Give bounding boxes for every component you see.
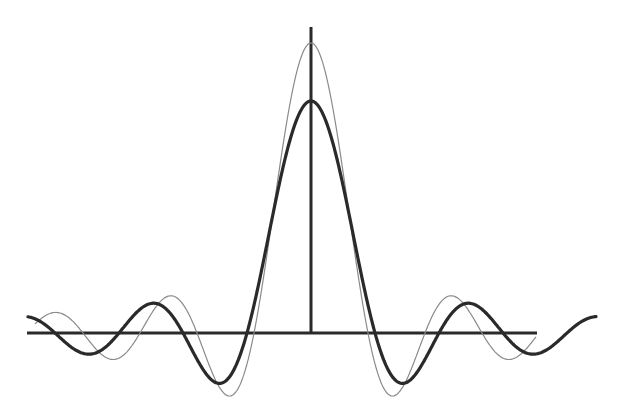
- diagram-canvas: [0, 0, 620, 417]
- sinc-plot: [0, 0, 620, 417]
